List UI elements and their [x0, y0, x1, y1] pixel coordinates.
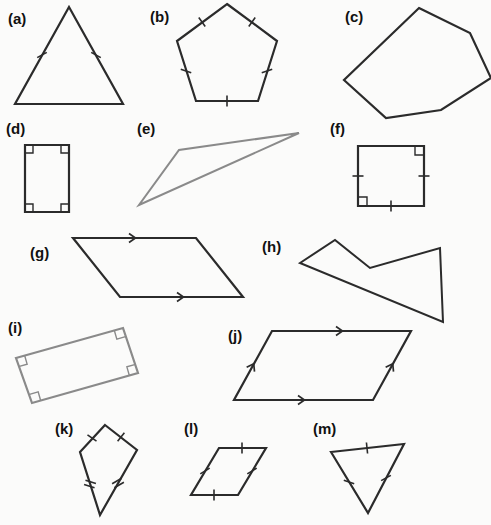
shape-outline: [300, 240, 443, 322]
figure-a-isosceles-triangle: (a): [8, 7, 123, 104]
figure-label-l: (l): [184, 420, 198, 437]
right-angle-mark: [61, 204, 69, 212]
figure-label-i: (i): [8, 319, 22, 336]
figure-l-rhombus: (l): [184, 420, 266, 501]
worksheet-canvas: (a)(b)(c)(d)(e)(f)(g)(h)(i)(j)(k)(l)(m): [0, 0, 491, 525]
tick-mark: [366, 443, 367, 454]
shape-outline: [15, 7, 123, 104]
shape-outline: [177, 4, 277, 101]
figures-svg: (a)(b)(c)(d)(e)(f)(g)(h)(i)(j)(k)(l)(m): [0, 0, 491, 525]
shape-outline: [80, 425, 137, 515]
figure-label-g: (g): [30, 244, 49, 261]
figure-label-h: (h): [262, 238, 281, 255]
figure-i-tilted-rectangle-right-angles: (i): [8, 319, 138, 403]
figure-label-j: (j): [228, 327, 242, 344]
figure-j-parallelogram-all-arrows: (j): [228, 327, 411, 405]
shape-outline: [73, 238, 243, 297]
shape-outline: [344, 8, 491, 118]
right-angle-mark: [415, 146, 424, 155]
right-angle-mark: [25, 204, 33, 212]
figure-label-c: (c): [345, 8, 363, 25]
figure-h-concave-pentagon: (h): [262, 238, 443, 322]
shape-outline: [191, 448, 266, 495]
right-angle-mark: [25, 145, 33, 153]
right-angle-mark: [358, 197, 367, 206]
figure-d-rectangle-right-angles: (d): [6, 120, 69, 212]
figure-b-regular-pentagon: (b): [150, 4, 277, 107]
figure-label-e: (e): [137, 120, 155, 137]
figure-label-m: (m): [313, 420, 336, 437]
figure-g-parallelogram-single-arrows: (g): [30, 234, 243, 302]
shape-outline: [234, 331, 411, 400]
figure-e-scalene-thin-triangle: (e): [137, 120, 299, 205]
figure-label-b: (b): [150, 8, 169, 25]
figure-f-square-right-angles-ticks: (f): [330, 120, 430, 212]
shape-outline: [25, 145, 69, 212]
figure-c-irregular-hexagon: (c): [344, 8, 491, 118]
figure-label-f: (f): [330, 120, 345, 137]
shape-outline: [358, 146, 424, 206]
figure-label-a: (a): [8, 10, 26, 27]
shape-outline: [139, 133, 299, 205]
figure-label-d: (d): [6, 120, 25, 137]
figure-label-k: (k): [55, 420, 73, 437]
figure-m-equilateral-triangle: (m): [313, 420, 404, 513]
right-angle-mark: [61, 145, 69, 153]
figure-k-kite: (k): [55, 420, 137, 515]
shape-outline: [331, 444, 404, 513]
tick-stroke: [84, 484, 94, 487]
shape-outline: [16, 328, 138, 403]
tick-stroke: [366, 443, 367, 454]
